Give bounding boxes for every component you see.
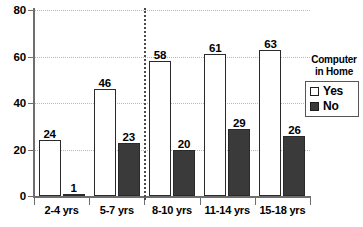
group-divider: [144, 8, 146, 200]
bar-2-4-yrs-yes[interactable]: 24: [39, 140, 61, 196]
legend-swatch-yes-icon: [310, 87, 319, 96]
bar-15-18-yrs-yes[interactable]: 63: [259, 50, 281, 196]
bar-11-14-yrs-yes[interactable]: 61: [204, 54, 226, 196]
legend-label-yes: Yes: [323, 85, 343, 98]
bar-value-label: 29: [233, 117, 245, 129]
y-tick-label-40: 40: [0, 97, 26, 109]
bar-value-label: 24: [43, 128, 55, 140]
legend-title: Computer in Home: [305, 54, 363, 77]
legend-item-yes[interactable]: Yes: [310, 85, 354, 98]
x-tick-mark-5: [310, 196, 311, 205]
bar-15-18-yrs-no[interactable]: 26: [283, 136, 305, 196]
bar-8-10-yrs-no[interactable]: 20: [173, 150, 195, 197]
bar-value-label: 23: [123, 131, 135, 143]
y-tick-mark-40: [28, 103, 34, 104]
y-tick-mark-60: [28, 57, 34, 58]
legend: Computer in Home Yes No: [305, 54, 363, 117]
bar-5-7-yrs-no[interactable]: 23: [118, 143, 140, 196]
x-axis-label-2-4-yrs: 2-4 yrs: [34, 204, 89, 216]
legend-title-line-1: Computer: [305, 54, 363, 66]
y-tick-label-20: 20: [0, 144, 26, 156]
bar-value-label: 63: [264, 38, 276, 50]
bar-chart: 2414623582061296326 806040200 2-4 yrs5-7…: [0, 0, 363, 227]
x-axis-label-15-18-yrs: 15-18 yrs: [255, 204, 310, 216]
bar-value-label: 46: [99, 77, 111, 89]
legend-label-no: No: [323, 100, 339, 113]
y-tick-mark-80: [28, 10, 34, 11]
legend-box: Yes No: [305, 81, 359, 117]
bar-value-label: 20: [178, 138, 190, 150]
y-tick-label-80: 80: [0, 4, 26, 16]
bar-value-label: 26: [288, 124, 300, 136]
bar-value-label: 58: [154, 49, 166, 61]
bar-8-10-yrs-yes[interactable]: 58: [149, 61, 171, 196]
bar-11-14-yrs-no[interactable]: 29: [228, 129, 250, 196]
plot-area: 2414623582061296326: [34, 10, 310, 196]
x-axis-label-5-7-yrs: 5-7 yrs: [89, 204, 144, 216]
x-axis-line: [33, 196, 311, 198]
legend-swatch-no-icon: [310, 102, 319, 111]
y-tick-mark-20: [28, 150, 34, 151]
legend-title-line-2: in Home: [305, 66, 363, 78]
x-axis-label-11-14-yrs: 11-14 yrs: [200, 204, 255, 216]
y-tick-label-60: 60: [0, 51, 26, 63]
bar-value-label: 1: [70, 182, 76, 194]
gridline-80: [34, 10, 310, 11]
legend-item-no[interactable]: No: [310, 100, 354, 113]
y-tick-label-0: 0: [0, 190, 26, 202]
x-axis-label-8-10-yrs: 8-10 yrs: [144, 204, 199, 216]
bar-5-7-yrs-yes[interactable]: 46: [94, 89, 116, 196]
bar-value-label: 61: [209, 42, 221, 54]
